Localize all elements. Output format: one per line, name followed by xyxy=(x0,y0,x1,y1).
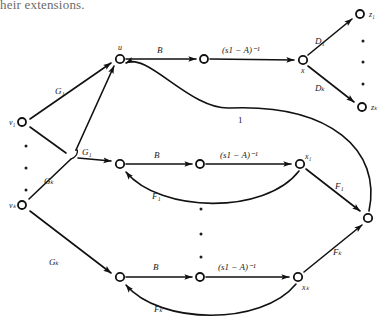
node-label-xk: xₖ xyxy=(301,283,310,292)
node-vk xyxy=(18,201,26,209)
edge-label-Gk-bot: Gₖ xyxy=(49,257,60,267)
left-ellipsis-dot xyxy=(25,145,28,148)
edge-label-F1-feedback: F₁ xyxy=(151,191,161,201)
node-v1 xyxy=(18,118,26,126)
edge-v1-to-mid-row xyxy=(30,127,111,161)
node-x xyxy=(299,56,307,64)
figure-canvas: heir extensions. xyxy=(0,0,390,318)
node-label-v1: v₁ xyxy=(9,118,16,127)
edge-label-Gk-mid: Gₖ xyxy=(44,176,55,186)
node-label-x: x xyxy=(300,66,305,75)
node-z1 xyxy=(356,10,364,18)
edge-xk-feedback-Fk xyxy=(126,284,296,315)
edge-label-G1-top: G₁ xyxy=(55,86,65,96)
node-label-zk: zₖ xyxy=(370,103,378,112)
mid-ellipsis-dot xyxy=(200,233,203,236)
signal-flow-graph: v₁ vₖ u x z₁ zₖ x₁ xₖ G₁ G₁ Gₖ Gₖ B B B … xyxy=(0,0,390,318)
edge-label-Dk: Dₖ xyxy=(314,83,326,93)
edge-label-G1-mid: G₁ xyxy=(82,147,92,157)
node-u xyxy=(116,55,124,63)
edge-crossover-hop xyxy=(71,150,77,159)
edge-vk-to-bottom-row xyxy=(30,211,111,273)
node-label-z1: z₁ xyxy=(368,10,375,19)
node-label-vk: vₖ xyxy=(9,201,17,210)
edge-label-resolvent-bot: (s1 − A)⁻¹ xyxy=(218,262,256,272)
node-x1 xyxy=(296,160,304,168)
left-ellipsis-dot xyxy=(25,167,28,170)
edge-n1-to-x-resolvent xyxy=(210,59,294,60)
edge-label-B-bot: B xyxy=(153,262,159,272)
mid-ellipsis-dot xyxy=(200,208,203,211)
node-summing xyxy=(364,214,372,222)
edge-label-B-mid: B xyxy=(154,150,160,160)
edge-label-resolvent-top: (s1 − A)⁻¹ xyxy=(222,45,260,55)
edge-vk-to-u xyxy=(29,66,114,199)
node-label-x1: x₁ xyxy=(304,152,312,161)
node-label-u: u xyxy=(118,43,122,52)
edge-label-F1-right: F₁ xyxy=(334,181,344,191)
nodes xyxy=(18,10,372,281)
node-zk xyxy=(358,103,366,111)
edge-v1-to-u xyxy=(30,63,111,119)
right-ellipsis-dot xyxy=(362,61,365,64)
node-top-mid xyxy=(200,55,208,63)
edges-from-sources xyxy=(29,63,114,273)
node-bot-mid xyxy=(196,273,204,281)
edge-label-resolvent-mid: (s1 − A)⁻¹ xyxy=(220,150,258,160)
right-ellipsis-dot xyxy=(362,83,365,86)
node-xk xyxy=(294,273,302,281)
edge-label-Fk-feedback: Fₖ xyxy=(153,304,164,314)
left-ellipsis-dot xyxy=(25,189,28,192)
mid-ellipsis-dot xyxy=(200,256,203,259)
edge-label-D1: D₁ xyxy=(314,36,325,46)
node-mid-mid xyxy=(196,160,204,168)
ellipsis-dots xyxy=(25,40,365,259)
right-ellipsis-dot xyxy=(362,40,365,43)
node-bot-left xyxy=(116,273,124,281)
node-mid-left xyxy=(116,160,124,168)
middle-row-edges xyxy=(126,164,360,211)
edge-label-B-top: B xyxy=(157,45,163,55)
edge-label-Fk-right: Fₖ xyxy=(332,247,343,257)
edge-x1-to-sum-F1 xyxy=(306,169,360,211)
edge-label-unity: 1 xyxy=(238,115,243,125)
